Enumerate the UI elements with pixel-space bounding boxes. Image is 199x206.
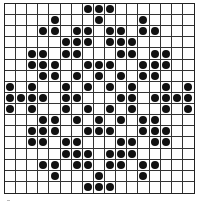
grid-cell — [5, 48, 16, 59]
grid-cell — [105, 71, 116, 82]
grid-cell — [105, 137, 116, 148]
grid-cell — [127, 15, 138, 26]
grid-cell — [94, 48, 105, 59]
grid-cell-dot — [105, 82, 116, 93]
grid-cell-dot — [150, 126, 161, 137]
grid-cell — [5, 71, 16, 82]
grid-cell — [38, 37, 49, 48]
grid-cell — [150, 149, 161, 160]
grid-cell-dot — [116, 93, 127, 104]
grid-cell — [172, 126, 183, 137]
grid-cell-dot — [94, 126, 105, 137]
grid-cell — [183, 160, 194, 171]
grid-cell-dot — [105, 37, 116, 48]
grid-cell — [27, 171, 38, 182]
grid-cell-dot — [138, 160, 149, 171]
grid-cell — [16, 126, 27, 137]
grid-cell — [16, 160, 27, 171]
grid-cell-dot — [161, 93, 172, 104]
grid-cell — [16, 171, 27, 182]
grid-cell — [27, 71, 38, 82]
grid-cell — [161, 160, 172, 171]
grid-cell — [83, 48, 94, 59]
grid-cell-dot — [27, 137, 38, 148]
grid-cell-dot — [5, 104, 16, 115]
grid-cell-dot — [38, 115, 49, 126]
grid-cell — [138, 104, 149, 115]
grid-cell — [127, 115, 138, 126]
grid-cell — [172, 115, 183, 126]
grid-cell-dot — [49, 71, 60, 82]
grid-cell — [83, 93, 94, 104]
grid-cell — [183, 4, 194, 15]
grid-cell — [116, 182, 127, 193]
grid-cell-dot — [127, 82, 138, 93]
grid-cell — [16, 137, 27, 148]
grid-cell-dot — [161, 104, 172, 115]
grid-cell — [49, 104, 60, 115]
grid-cell — [94, 37, 105, 48]
grid-cell-dot — [72, 115, 83, 126]
grid-cell-dot — [72, 48, 83, 59]
grid-cell — [27, 15, 38, 26]
grid-cell — [161, 182, 172, 193]
grid-cell — [61, 26, 72, 37]
grid-cell — [150, 182, 161, 193]
grid-cell-dot — [27, 126, 38, 137]
grid-cell-dot — [150, 137, 161, 148]
grid-cell — [150, 104, 161, 115]
grid-cell — [138, 93, 149, 104]
grid-cell — [94, 93, 105, 104]
grid-cell — [116, 82, 127, 93]
grid-cell-dot — [150, 160, 161, 171]
grid-cell-dot — [105, 60, 116, 71]
grid-cell — [38, 82, 49, 93]
grid-cell — [61, 171, 72, 182]
grid-cell-dot — [83, 160, 94, 171]
grid-cell-dot — [172, 93, 183, 104]
grid-cell — [5, 60, 16, 71]
grid-cell — [16, 104, 27, 115]
grid-cell-dot — [83, 37, 94, 48]
grid-cell — [5, 126, 16, 137]
grid-cell — [72, 60, 83, 71]
grid-cell — [49, 93, 60, 104]
grid-cell — [183, 137, 194, 148]
grid-cell — [49, 4, 60, 15]
grid-cell — [183, 171, 194, 182]
grid-cell-dot — [38, 137, 49, 148]
grid-cell — [105, 171, 116, 182]
grid-cell — [94, 149, 105, 160]
grid-cell-dot — [27, 93, 38, 104]
grid-cell — [127, 171, 138, 182]
grid-cell — [38, 4, 49, 15]
grid-cell-dot — [138, 126, 149, 137]
grid-cell-dot — [83, 182, 94, 193]
grid-cell — [172, 149, 183, 160]
grid-cell — [5, 37, 16, 48]
grid-cell — [105, 93, 116, 104]
grid-cell — [127, 126, 138, 137]
grid-cell — [49, 182, 60, 193]
grid-cell — [172, 160, 183, 171]
grid-cell — [61, 4, 72, 15]
grid-cell — [183, 115, 194, 126]
grid-cell — [161, 71, 172, 82]
grid-cell-dot — [116, 160, 127, 171]
grid-cell-dot — [127, 48, 138, 59]
grid-cell — [127, 182, 138, 193]
grid-cell — [161, 149, 172, 160]
grid-cell — [27, 149, 38, 160]
grid-cell-dot — [138, 71, 149, 82]
grid-cell — [61, 182, 72, 193]
grid-cell-dot — [116, 37, 127, 48]
grid-cell-dot — [49, 26, 60, 37]
grid-cell — [94, 160, 105, 171]
grid-cell — [49, 137, 60, 148]
grid-cell-dot — [27, 60, 38, 71]
grid-cell — [172, 104, 183, 115]
grid-cell-dot — [72, 26, 83, 37]
grid-cell — [5, 160, 16, 171]
grid-cell-dot — [105, 149, 116, 160]
grid-cell — [61, 71, 72, 82]
